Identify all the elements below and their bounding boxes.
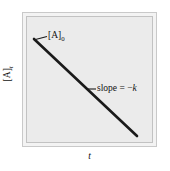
plot-canvas bbox=[0, 0, 170, 171]
y-axis-label: [A]t bbox=[3, 54, 15, 94]
annotation-slope-prefix: slope = − bbox=[97, 83, 133, 93]
y-axis-label-base: [A] bbox=[2, 68, 12, 81]
annotation-slope: slope = −k bbox=[97, 84, 137, 94]
annotation-initial-concentration-subscript: 0 bbox=[61, 35, 64, 42]
leader-line-initial-concentration bbox=[36, 37, 48, 40]
annotation-initial-concentration-base: [A] bbox=[48, 30, 61, 40]
x-axis-label: t bbox=[22, 152, 157, 162]
kinetics-plot-figure: [A]t t [A]0 slope = −k bbox=[0, 0, 170, 171]
y-axis-label-subscript: t bbox=[7, 66, 14, 68]
annotation-slope-rate-constant: k bbox=[133, 83, 137, 93]
annotation-initial-concentration: [A]0 bbox=[48, 31, 65, 43]
